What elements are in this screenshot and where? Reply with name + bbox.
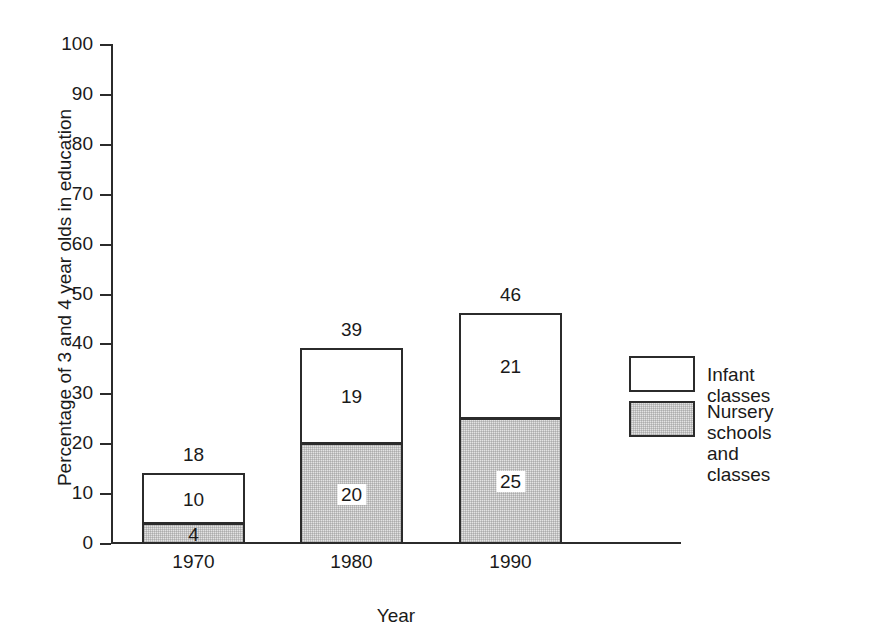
legend-item-infant-classes[interactable]: Infant classes — [629, 356, 770, 406]
y-tick-label: 0 — [47, 533, 93, 552]
bar-segment-nursery-1970[interactable]: 4 — [142, 523, 245, 544]
y-tick-mark — [100, 194, 111, 196]
bar-chart: Percentage of 3 and 4 year olds in educa… — [0, 0, 880, 643]
y-tick-label: 100 — [47, 34, 93, 53]
y-tick-50: 50 — [0, 294, 111, 296]
y-tick-label: 10 — [47, 483, 93, 502]
x-tick-label-1990: 1990 — [489, 552, 531, 571]
y-tick-label: 60 — [47, 234, 93, 253]
bar-value-label-infant-1990: 21 — [496, 356, 525, 377]
y-tick-mark — [100, 244, 111, 246]
y-tick-mark — [100, 493, 111, 495]
bar-group-1970: 104181970 — [142, 0, 245, 643]
y-tick-mark — [100, 343, 111, 345]
y-tick-40: 40 — [0, 343, 111, 345]
legend-item-nursery-schools[interactable]: Nursery schools and classes — [629, 401, 774, 485]
bar-value-label-nursery-1970: 4 — [184, 524, 203, 545]
y-tick-100: 100 — [0, 44, 111, 46]
bar-total-label-1970: 18 — [183, 445, 204, 464]
y-axis-line — [111, 44, 113, 544]
y-tick-label: 20 — [47, 433, 93, 452]
legend-label: Infant classes — [707, 356, 770, 406]
legend-label: Nursery schools and classes — [707, 401, 774, 485]
bar-total-label-1990: 46 — [500, 285, 521, 304]
y-tick-label: 70 — [47, 184, 93, 203]
legend-swatch-grey — [629, 401, 695, 437]
y-tick-label: 90 — [47, 84, 93, 103]
y-tick-30: 30 — [0, 393, 111, 395]
y-tick-mark — [100, 393, 111, 395]
bar-segment-nursery-1990[interactable]: 25 — [459, 418, 562, 544]
bar-segment-infant-1970[interactable]: 10 — [142, 473, 245, 524]
bar-segment-infant-1990[interactable]: 21 — [459, 313, 562, 419]
y-tick-label: 40 — [47, 333, 93, 352]
y-tick-label: 80 — [47, 134, 93, 153]
y-tick-10: 10 — [0, 493, 111, 495]
x-axis-title: Year — [111, 606, 681, 625]
bar-group-1980: 1920391980 — [300, 0, 403, 643]
bar-segment-nursery-1980[interactable]: 20 — [300, 443, 403, 544]
y-tick-mark — [100, 443, 111, 445]
y-tick-mark — [100, 44, 111, 46]
bar-value-label-nursery-1980: 20 — [337, 484, 366, 505]
y-tick-90: 90 — [0, 94, 111, 96]
y-tick-70: 70 — [0, 194, 111, 196]
bar-value-label-infant-1970: 10 — [179, 489, 208, 510]
y-tick-mark — [100, 94, 111, 96]
y-tick-0: 0 — [0, 543, 111, 545]
y-tick-60: 60 — [0, 244, 111, 246]
y-tick-label: 50 — [47, 284, 93, 303]
y-tick-mark — [100, 144, 111, 146]
bar-value-label-infant-1980: 19 — [337, 386, 366, 407]
y-tick-label: 30 — [47, 383, 93, 402]
y-tick-mark — [100, 294, 111, 296]
x-tick-label-1980: 1980 — [330, 552, 372, 571]
y-tick-20: 20 — [0, 443, 111, 445]
legend-swatch-white — [629, 356, 695, 392]
bar-segment-infant-1980[interactable]: 19 — [300, 348, 403, 444]
bar-total-label-1980: 39 — [341, 320, 362, 339]
y-tick-mark — [100, 543, 111, 545]
bar-value-label-nursery-1990: 25 — [496, 471, 525, 492]
y-tick-80: 80 — [0, 144, 111, 146]
bar-group-1990: 2125461990 — [459, 0, 562, 643]
x-tick-label-1970: 1970 — [172, 552, 214, 571]
